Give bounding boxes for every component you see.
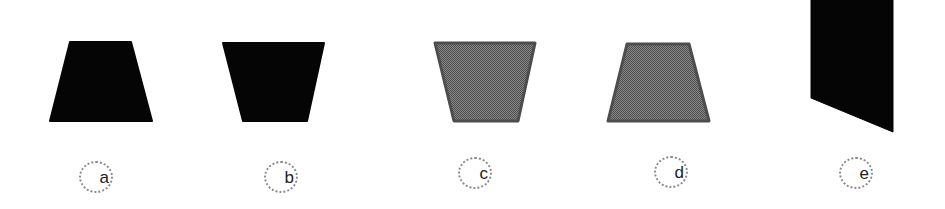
option-label-c[interactable]: c (458, 157, 492, 189)
shape-b-trapezoid (223, 43, 324, 121)
option-label-a[interactable]: a (79, 161, 113, 193)
option-label-d[interactable]: d (654, 156, 688, 188)
shape-a-trapezoid (50, 42, 152, 121)
option-letter-c: c (480, 165, 489, 182)
option-label-b[interactable]: b (264, 161, 298, 193)
option-letter-d: d (675, 164, 684, 181)
option-letter-a: a (100, 169, 109, 186)
option-letter-b: b (285, 169, 294, 186)
option-letter-e: e (860, 165, 869, 182)
shape-c-trapezoid (435, 43, 535, 121)
shape-d-trapezoid (608, 44, 709, 121)
option-label-e[interactable]: e (839, 157, 873, 189)
shape-e-parallelogram (811, 0, 893, 132)
